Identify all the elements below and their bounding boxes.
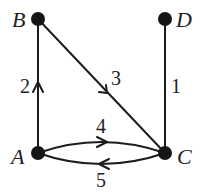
edge-weight-a-b: 2	[20, 75, 30, 97]
edge-weight-a-c: 4	[96, 115, 106, 137]
node-label-c: C	[177, 144, 192, 169]
edge-weight-c-a: 5	[96, 169, 106, 191]
edge-weight-b-c: 3	[111, 67, 121, 89]
edge-a-c	[38, 137, 165, 153]
node-d	[158, 12, 172, 26]
node-b	[31, 12, 45, 26]
node-c	[158, 146, 172, 160]
edge-a-b	[33, 19, 43, 153]
edge-weight-d-c: 1	[171, 75, 181, 97]
graph-svg: B D A C 2 3 1 4 5	[0, 0, 207, 193]
node-label-d: D	[175, 7, 192, 32]
graph-diagram: B D A C 2 3 1 4 5	[0, 0, 207, 193]
node-label-b: B	[12, 7, 25, 32]
node-label-a: A	[9, 144, 25, 169]
node-a	[31, 146, 45, 160]
edge-c-a	[38, 153, 165, 169]
